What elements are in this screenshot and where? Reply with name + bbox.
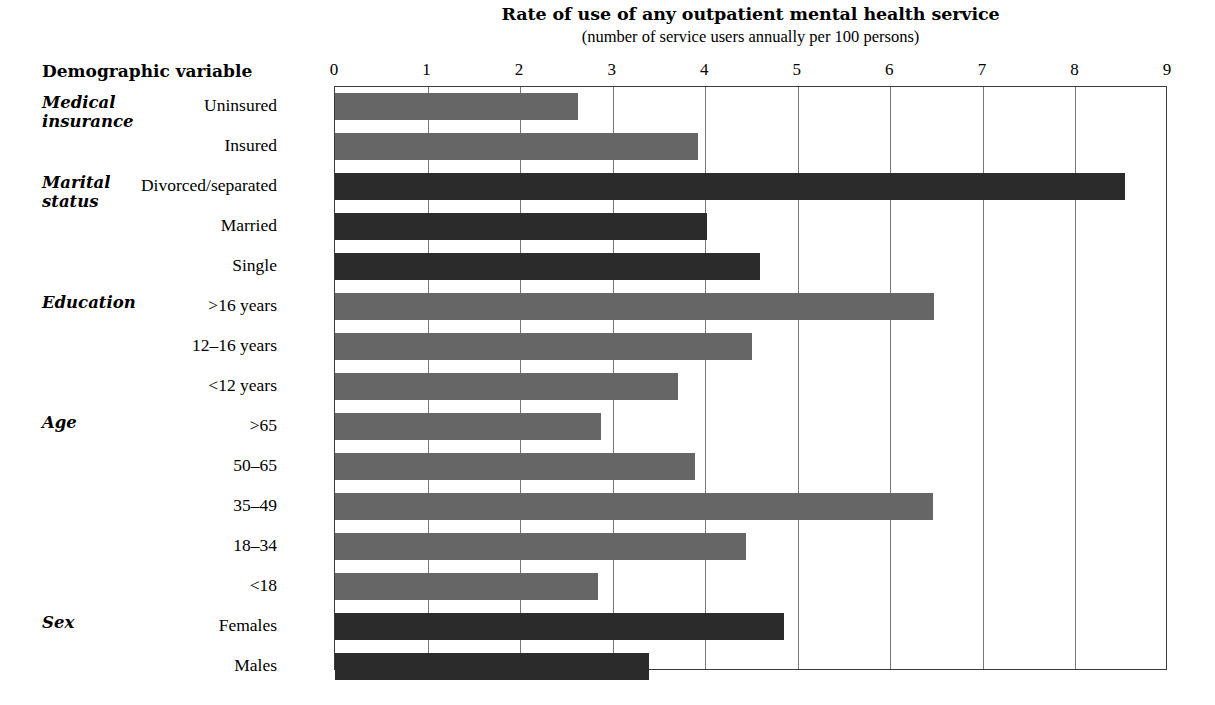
chart-figure: Rate of use of any outpatient mental hea… — [0, 0, 1215, 705]
x-tick-9: 9 — [1163, 60, 1172, 80]
x-tick-0: 0 — [330, 60, 339, 80]
bar — [335, 653, 649, 680]
category-label: Insured — [225, 132, 277, 159]
bar — [335, 173, 1125, 200]
bar — [335, 493, 933, 520]
category-label: Females — [219, 612, 277, 639]
bar — [335, 93, 578, 120]
x-tick-5: 5 — [793, 60, 802, 80]
x-tick-1: 1 — [422, 60, 431, 80]
category-label: Uninsured — [204, 92, 277, 119]
bar — [335, 133, 698, 160]
bar — [335, 373, 678, 400]
category-label: Males — [234, 652, 277, 679]
bar — [335, 213, 707, 240]
category-label: Single — [232, 252, 277, 279]
bar — [335, 293, 934, 320]
x-tick-4: 4 — [700, 60, 709, 80]
x-tick-8: 8 — [1070, 60, 1079, 80]
chart-title: Rate of use of any outpatient mental hea… — [334, 4, 1167, 25]
category-label: 35–49 — [233, 492, 277, 519]
x-tick-3: 3 — [607, 60, 616, 80]
bar — [335, 533, 746, 560]
category-label: >65 — [250, 412, 277, 439]
category-label: 18–34 — [233, 532, 277, 559]
category-label-column: UninsuredInsuredDivorced/separatedMarrie… — [0, 86, 334, 670]
category-label: Divorced/separated — [141, 172, 277, 199]
category-label: 12–16 years — [192, 332, 277, 359]
category-label: <18 — [250, 572, 277, 599]
category-label: <12 years — [208, 372, 277, 399]
bar — [335, 333, 752, 360]
x-tick-2: 2 — [515, 60, 524, 80]
x-tick-6: 6 — [885, 60, 894, 80]
bar — [335, 453, 695, 480]
bar — [335, 613, 784, 640]
x-axis-tick-labels: 0123456789 — [0, 60, 1215, 84]
chart-title-block: Rate of use of any outpatient mental hea… — [334, 4, 1167, 48]
category-label: >16 years — [208, 292, 277, 319]
bar — [335, 253, 760, 280]
bar — [335, 413, 601, 440]
chart-subtitle: (number of service users annually per 10… — [334, 27, 1167, 48]
x-tick-7: 7 — [978, 60, 987, 80]
plot-area — [334, 86, 1167, 670]
category-label: Married — [221, 212, 277, 239]
category-label: 50–65 — [233, 452, 277, 479]
bars-layer — [335, 87, 1166, 669]
bar — [335, 573, 598, 600]
